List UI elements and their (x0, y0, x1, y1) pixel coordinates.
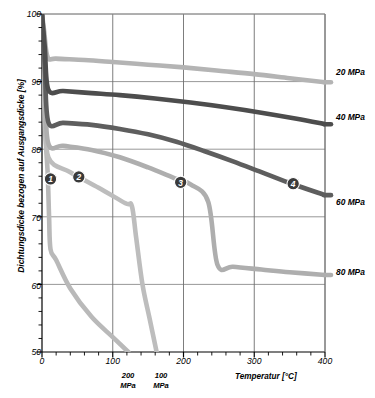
point-marker-3: 3 (174, 176, 186, 188)
point-marker-4: 4 (287, 177, 299, 189)
chart-figure: Dichtungsdicke bezogen auf Ausgangsdicke… (0, 0, 375, 398)
plot-area: 1234 (0, 0, 375, 398)
point-marker-2: 2 (73, 171, 85, 183)
point-marker-1: 1 (44, 173, 56, 185)
marker-label: 2 (75, 172, 81, 182)
marker-label: 1 (48, 174, 53, 184)
marker-label: 3 (178, 178, 183, 188)
marker-label: 4 (290, 179, 296, 189)
